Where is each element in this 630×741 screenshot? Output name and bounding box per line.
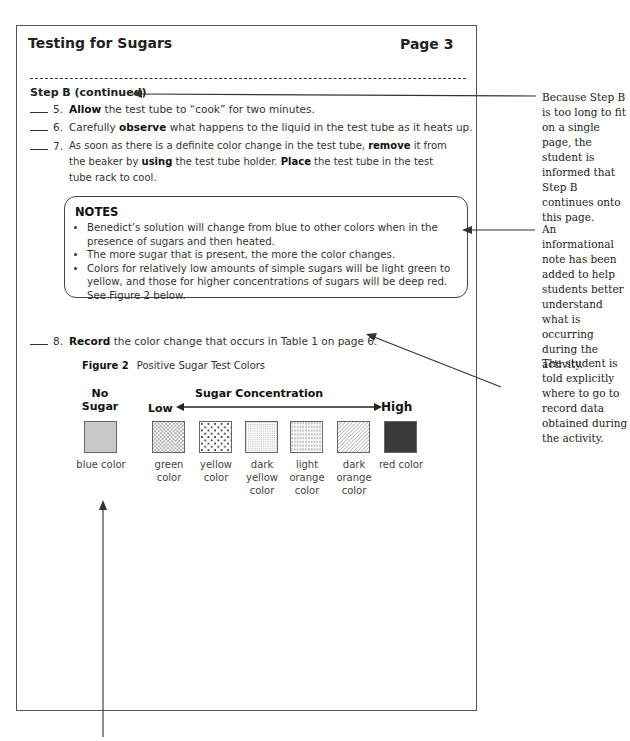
callout-arrows (0, 0, 630, 741)
